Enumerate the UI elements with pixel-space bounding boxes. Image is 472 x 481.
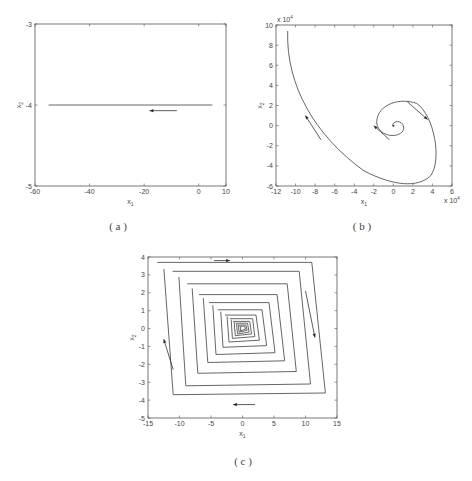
trajectory-curve (173, 271, 311, 386)
x-tick-label: -6 (332, 188, 338, 195)
svg-text:x2: x2 (128, 334, 137, 341)
svg-text:x1: x1 (127, 198, 134, 207)
y-axis-label: x2 (256, 102, 265, 109)
x-tick-label: -10 (290, 188, 300, 195)
y-tick-label: 10 (265, 22, 273, 29)
arrowhead-icon (233, 403, 237, 406)
y-tick-label: -5 (139, 415, 145, 422)
trajectory-curve (239, 326, 245, 331)
x-tick-label: -2 (371, 188, 377, 195)
y-tick-label: 0 (141, 325, 145, 332)
x-tick-label: -5 (208, 420, 214, 427)
y-tick-label: 4 (141, 254, 145, 261)
svg-text:x1: x1 (239, 430, 246, 439)
y-tick-label: 3 (141, 271, 145, 278)
x-multiplier-label: x 104 (444, 196, 460, 204)
plot-c: -15-10-5051015-5-4-3-2-101234x1x2( c ) (128, 254, 341, 469)
x-tick-label: -8 (312, 188, 318, 195)
y-tick-label: -3 (26, 21, 32, 28)
x-tick-label: -40 (85, 188, 95, 195)
y-tick-label: -6 (267, 183, 273, 190)
x-tick-label: -10 (174, 420, 184, 427)
y-axis-label: x2 (15, 102, 24, 109)
x-tick-label: 10 (302, 420, 310, 427)
x-axis-label: x1 (361, 198, 368, 207)
arrowhead-icon (150, 109, 154, 112)
plot-a: -60-40-20010-5-4-3x1x2( a ) (15, 21, 230, 234)
y-tick-label: 4 (269, 82, 273, 89)
y-tick-label: -2 (267, 142, 273, 149)
x-tick-label: 2 (411, 188, 415, 195)
y-tick-label: -4 (26, 102, 32, 109)
trajectory-curve (187, 284, 296, 374)
arrowhead-icon (313, 334, 316, 338)
x-tick-label: 10 (222, 188, 230, 195)
arrowhead-icon (163, 339, 166, 343)
y-tick-label: -3 (139, 379, 145, 386)
x-tick-label: -4 (351, 188, 357, 195)
y-tick-label: 8 (269, 42, 273, 49)
caption-a: ( a ) (109, 220, 127, 233)
y-tick-label: 0 (269, 122, 273, 129)
x-tick-label: 4 (430, 188, 434, 195)
svg-text:x2: x2 (15, 102, 24, 109)
x-tick-label: -20 (139, 188, 149, 195)
x-tick-label: 15 (333, 420, 341, 427)
y-tick-label: -2 (139, 361, 145, 368)
y-tick-label: -1 (139, 343, 145, 350)
y-tick-label: 2 (141, 289, 145, 296)
x-tick-label: 6 (450, 188, 454, 195)
arrowhead-icon (305, 116, 308, 120)
caption-c: ( c ) (234, 455, 252, 468)
y-tick-label: 6 (269, 62, 273, 69)
direction-arrow (164, 339, 173, 369)
arrowhead-icon (226, 259, 230, 262)
svg-text:x2: x2 (256, 102, 265, 109)
y-tick-label: -5 (26, 183, 32, 190)
y-tick-label: 1 (141, 307, 145, 314)
y-multiplier-label: x 104 (277, 15, 293, 23)
x-tick-label: 0 (241, 420, 245, 427)
svg-text:x1: x1 (361, 198, 368, 207)
caption-b: ( b ) (353, 220, 372, 233)
axes-box (276, 25, 452, 186)
y-tick-label: -4 (139, 397, 145, 404)
plot-b: -12-10-8-6-4-20246-6-4-20246810x1x2x 104… (256, 15, 460, 233)
x-tick-label: 0 (391, 188, 395, 195)
y-tick-label: -4 (267, 162, 273, 169)
y-tick-label: 2 (269, 102, 273, 109)
figure: -60-40-20010-5-4-3x1x2( a ) -12-10-8-6-4… (0, 0, 472, 481)
equilibrium-point (392, 125, 394, 127)
x-tick-label: 0 (197, 188, 201, 195)
x-axis-label: x1 (239, 430, 246, 439)
x-axis-label: x1 (127, 198, 134, 207)
y-axis-label: x2 (128, 334, 137, 341)
x-tick-label: 5 (272, 420, 276, 427)
direction-arrow (306, 291, 315, 338)
